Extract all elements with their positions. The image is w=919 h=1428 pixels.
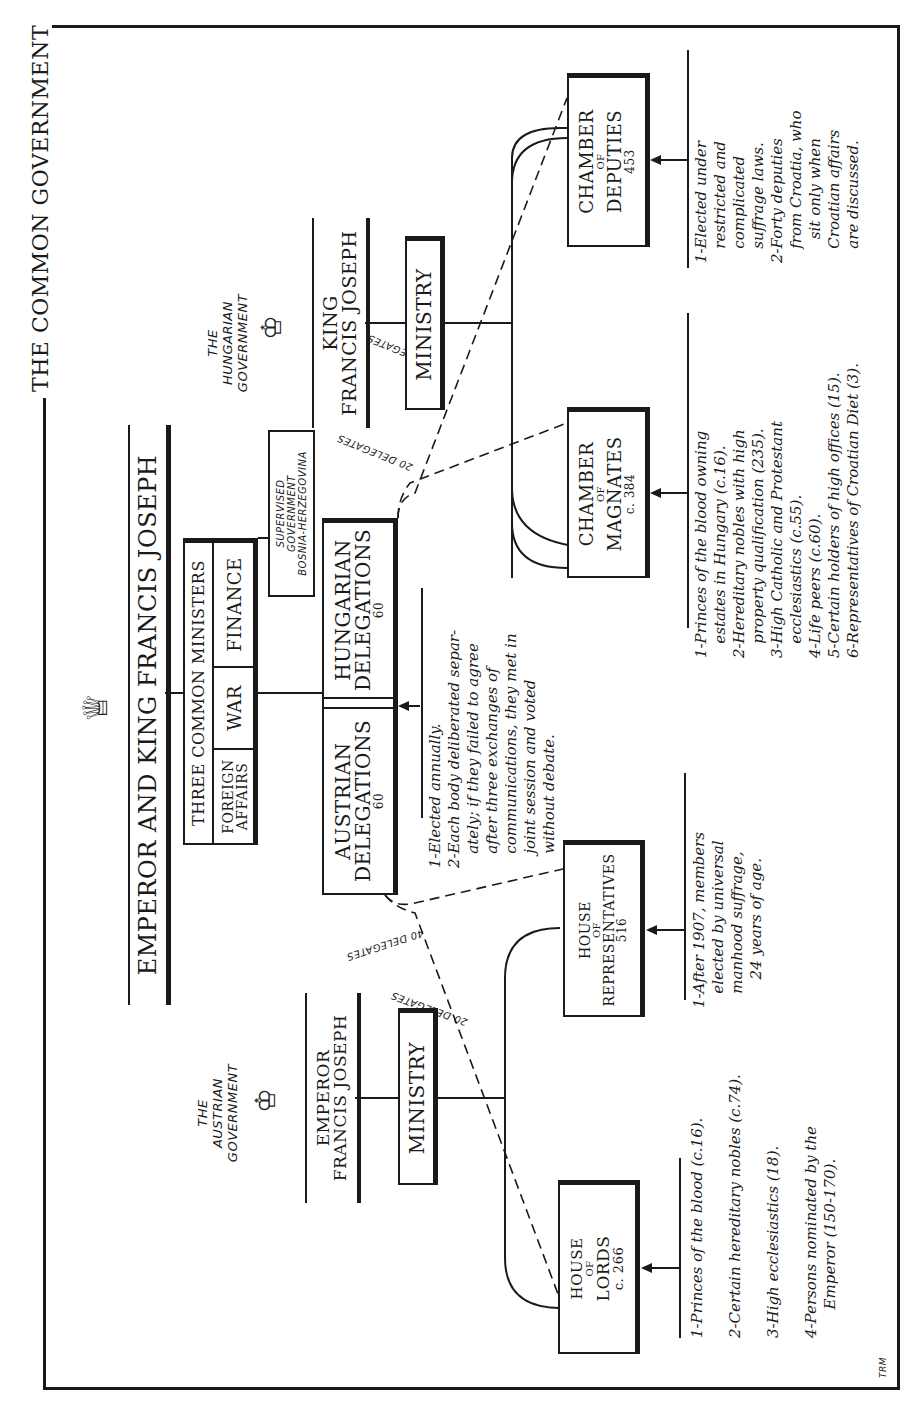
emperor-header: EMPEROR AND KING FRANCIS JOSEPH: [128, 425, 171, 1005]
lords-notes: 1-Princes of the blood (c.16). 2-Certain…: [688, 1074, 840, 1338]
austrian-ministry-box: MINISTRY: [398, 1008, 438, 1185]
diagram-canvas: THE COMMON GOVERNMENT: [0, 0, 919, 1428]
austrian-crown-icon: ♔: [252, 1088, 280, 1113]
supervised-government-box: SUPERVISED GOVERNMENT BOSNIA-HERZEGOVINA: [268, 430, 315, 597]
chamber-of-magnates-box: CHAMBER OF MAGNATES c. 384: [567, 407, 650, 578]
hungarian-ruler: KING FRANCIS JOSEPH: [312, 218, 370, 428]
supervised-line3: BOSNIA-HERZEGOVINA: [297, 451, 308, 576]
supervised-line2: GOVERNMENT: [286, 475, 297, 552]
common-ministers-heading: THREE COMMON MINISTERS: [185, 543, 214, 843]
hungarian-crown-icon: ♔: [258, 315, 286, 340]
austrian-ruler: EMPEROR FRANCIS JOSEPH: [305, 993, 361, 1203]
emperor-header-text: EMPEROR AND KING FRANCIS JOSEPH: [136, 455, 160, 975]
delegations-box: AUSTRIAN DELEGATIONS 60 HUNGARIAN DELEGA…: [322, 518, 398, 895]
crown-icon: ♕: [78, 693, 112, 723]
ministers-row: FOREIGN AFFAIRS WAR FINANCE: [214, 543, 256, 843]
artist-signature: TRM: [878, 1357, 888, 1378]
hungarian-ministry-box: MINISTRY: [405, 236, 445, 410]
austrian-delegations: AUSTRIAN DELEGATIONS 60: [324, 707, 393, 893]
delegation-divider: [324, 697, 393, 707]
deputies-notes: 1-Elected under restricted and complicat…: [692, 110, 863, 263]
hungarian-government-label: THE HUNGARIAN GOVERNMENT: [205, 293, 250, 393]
minister-foreign-affairs: FOREIGN AFFAIRS: [214, 748, 256, 843]
chamber-of-deputies-box: CHAMBER OF DEPUTIES 453: [567, 73, 650, 247]
supervised-line1: SUPERVISED: [275, 479, 286, 547]
austrian-government-label: THE AUSTRIAN GOVERNMENT: [195, 1063, 240, 1163]
house-of-representatives-box: HOUSE OF REPRESENTATIVES 516: [563, 840, 645, 1017]
minister-finance: FINANCE: [214, 543, 256, 666]
house-of-lords-box: HOUSE OF LORDS c. 266: [558, 1180, 640, 1354]
delegations-notes: 1-Elected annually. 2-Each body delibera…: [426, 630, 559, 868]
magnates-notes: 1-Princes of the blood owning estates in…: [692, 363, 863, 658]
hungarian-delegations: HUNGARIAN DELEGATIONS 60: [324, 523, 393, 697]
common-ministers-box: THREE COMMON MINISTERS FOREIGN AFFAIRS W…: [183, 538, 258, 845]
minister-war: WAR: [214, 666, 256, 748]
representatives-notes: 1-After 1907, members elected by univers…: [690, 832, 766, 1008]
